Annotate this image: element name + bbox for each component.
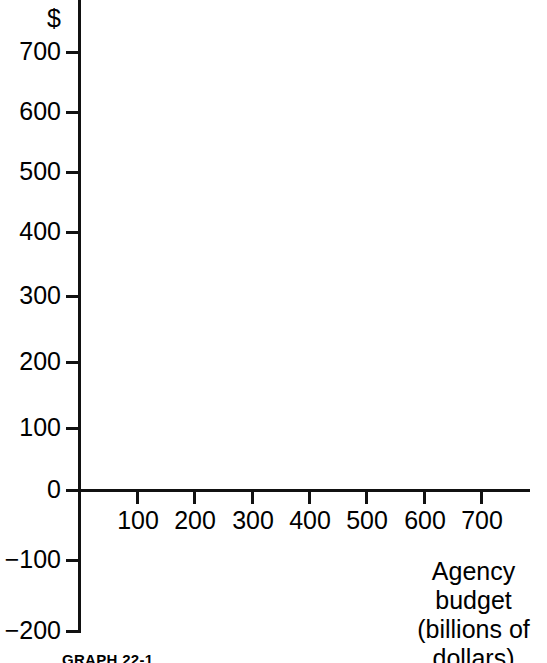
- x-axis-tick-label: 400: [289, 508, 331, 533]
- figure-caption: GRAPH 22-1: [62, 651, 153, 663]
- y-axis-tick-label: 500: [19, 159, 61, 184]
- x-axis-tick-label: 300: [232, 508, 274, 533]
- y-axis-tick: [66, 171, 79, 174]
- y-axis-tick-label: −100: [5, 547, 61, 572]
- y-axis-tick: [66, 559, 79, 562]
- x-axis-tick-label: 500: [346, 508, 388, 533]
- x-axis-tick-label: 100: [117, 508, 159, 533]
- y-axis-tick-label: 300: [19, 283, 61, 308]
- y-axis-tick: [66, 489, 79, 492]
- y-axis-tick-label: 400: [19, 219, 61, 244]
- y-axis-tick: [66, 231, 79, 234]
- y-axis-unit-label: $: [47, 6, 61, 31]
- y-axis-tick-label: 700: [19, 39, 61, 64]
- x-axis-tick: [136, 492, 139, 504]
- y-axis-tick-label: 0: [47, 477, 61, 502]
- y-axis-tick: [66, 361, 79, 364]
- y-axis-tick-label: 100: [19, 415, 61, 440]
- x-axis-title: Agency budget (billions of dollars): [400, 557, 547, 663]
- y-axis-tick: [66, 111, 79, 114]
- x-axis-tick-label: 700: [461, 508, 503, 533]
- x-axis-tick: [423, 492, 426, 504]
- y-axis-tick: [66, 51, 79, 54]
- y-axis-tick-label: 200: [19, 349, 61, 374]
- x-axis-tick-label: 200: [174, 508, 216, 533]
- x-axis-tick: [480, 492, 483, 504]
- y-axis-tick-label: −200: [5, 618, 61, 643]
- x-axis-tick: [193, 492, 196, 504]
- y-axis-tick: [66, 630, 79, 633]
- x-axis-tick-label: 600: [404, 508, 446, 533]
- x-axis-tick: [251, 492, 254, 504]
- chart-figure: $ 700 600 500 400 300 200 100 0 −100 −20…: [0, 0, 547, 663]
- x-axis-title-line: (billions of: [400, 615, 547, 644]
- x-axis-tick: [365, 492, 368, 504]
- plot-area: [81, 3, 530, 489]
- x-axis-title-line: dollars): [400, 644, 547, 663]
- y-axis-tick: [66, 427, 79, 430]
- x-axis-tick: [308, 492, 311, 504]
- y-axis-line: [78, 0, 81, 633]
- x-axis-title-line: budget: [400, 586, 547, 615]
- y-axis-tick: [66, 295, 79, 298]
- y-axis-tick-label: 600: [19, 99, 61, 124]
- x-axis-title-line: Agency: [400, 557, 547, 586]
- x-axis-line: [78, 489, 530, 492]
